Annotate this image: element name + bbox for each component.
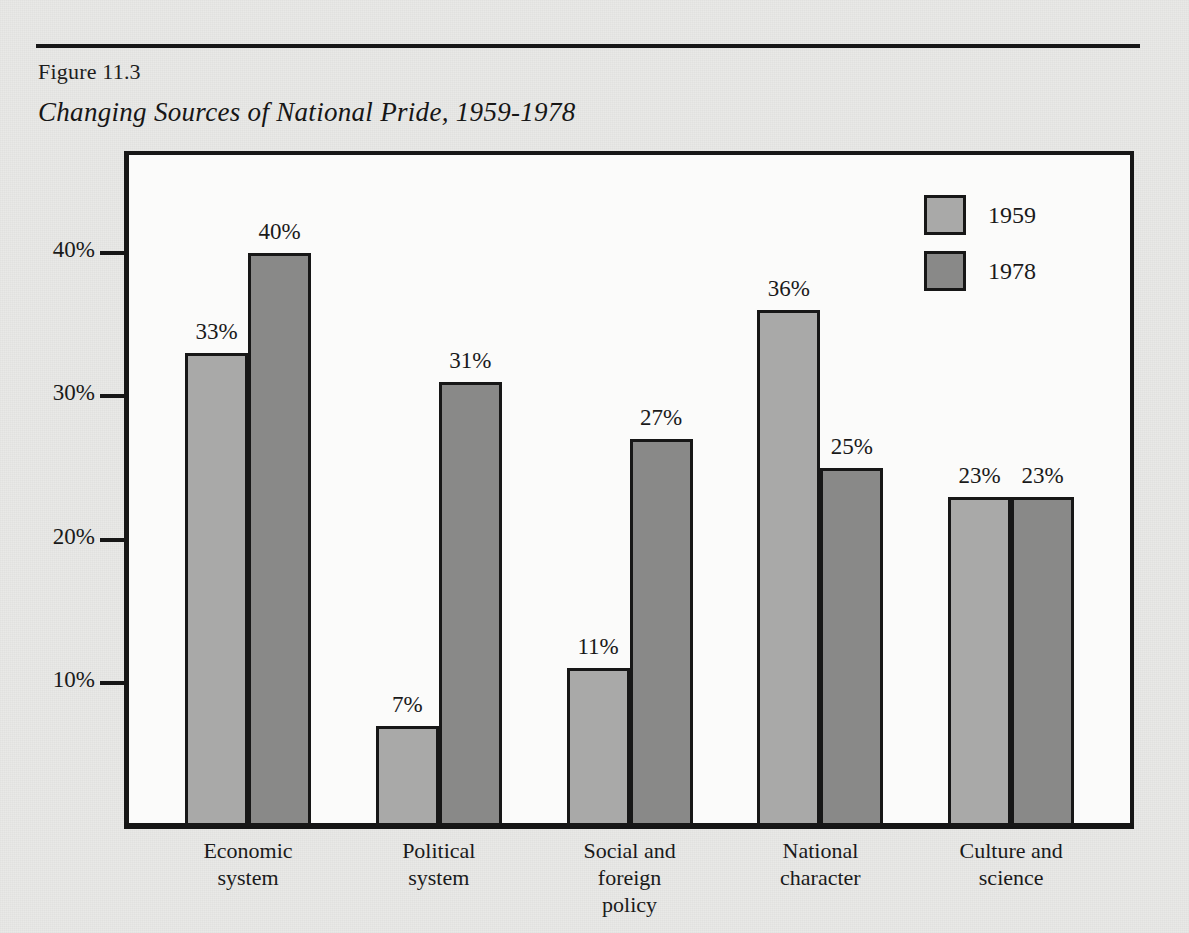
category-label-line: Political [334, 838, 544, 865]
bar-1959-2 [376, 726, 439, 826]
bar-value-label-1959-4: 36% [741, 276, 836, 302]
bar-value-label-1978-2: 31% [423, 348, 518, 374]
bar-1978-5 [1011, 497, 1074, 826]
y-axis-label-30: 30% [21, 380, 95, 406]
x-axis-category-label-3: Social andforeignpolicy [525, 838, 735, 918]
figure-number-label: Figure 11.3 [38, 59, 141, 85]
category-label-line: Social and [525, 838, 735, 865]
category-label-line: foreign [525, 865, 735, 892]
legend-label-1959: 1959 [988, 202, 1036, 229]
bar-1959-5 [948, 497, 1011, 826]
y-axis-line [124, 151, 129, 829]
bar-1959-1 [185, 353, 248, 826]
bar-value-label-1978-5: 23% [995, 463, 1090, 489]
category-label-line: character [715, 865, 925, 892]
x-axis-category-label-1: Economicsystem [143, 838, 353, 892]
x-axis-category-label-4: Nationalcharacter [715, 838, 925, 892]
y-axis-tick-30 [100, 394, 126, 398]
category-label-line: Economic [143, 838, 353, 865]
bar-value-label-1978-1: 40% [232, 219, 327, 245]
bar-value-label-1978-3: 27% [614, 405, 709, 431]
figure-container: Figure 11.3 Changing Sources of National… [0, 0, 1189, 933]
figure-title: Changing Sources of National Pride, 1959… [38, 97, 575, 128]
category-label-line: policy [525, 892, 735, 919]
legend-swatch-1959 [924, 195, 966, 235]
y-axis-tick-20 [100, 538, 126, 542]
legend-entry-1959: 1959 [924, 192, 1036, 238]
y-axis-tick-10 [100, 681, 126, 685]
bar-value-label-1978-4: 25% [804, 434, 899, 460]
chart-legend: 1959 1978 [924, 192, 1036, 304]
category-label-line: National [715, 838, 925, 865]
bar-1978-2 [439, 382, 502, 826]
category-label-line: Culture and [906, 838, 1116, 865]
y-axis-tick-40 [100, 251, 126, 255]
bar-1959-4 [757, 310, 820, 826]
category-label-line: system [143, 865, 353, 892]
category-label-line: science [906, 865, 1116, 892]
bar-1978-3 [630, 439, 693, 826]
y-axis-label-20: 20% [21, 524, 95, 550]
y-axis-label-40: 40% [21, 237, 95, 263]
bar-1978-1 [248, 253, 311, 826]
category-label-line: system [334, 865, 544, 892]
bar-1978-4 [820, 468, 883, 826]
legend-label-1978: 1978 [988, 258, 1036, 285]
legend-swatch-1978 [924, 251, 966, 291]
bar-1959-3 [567, 668, 630, 826]
legend-entry-1978: 1978 [924, 248, 1036, 294]
y-axis-label-10: 10% [21, 667, 95, 693]
figure-top-rule [36, 44, 1140, 48]
x-axis-category-label-2: Politicalsystem [334, 838, 544, 892]
x-axis-category-label-5: Culture andscience [906, 838, 1116, 892]
